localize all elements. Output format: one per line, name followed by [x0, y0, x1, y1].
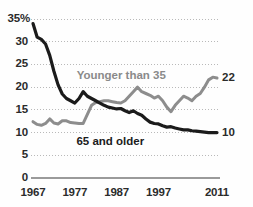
y-tick-10: 10 — [0, 127, 28, 139]
x-tick-1977: 1977 — [55, 187, 95, 199]
series-line-younger-than-35 — [33, 77, 217, 125]
y-tick-20: 20 — [0, 81, 28, 93]
y-tick-0: 0 — [0, 172, 28, 184]
y-tick-30: 30 — [0, 36, 28, 48]
series-annotation-65-and-older: 65 and older — [76, 136, 144, 148]
y-tick-35: 35% — [0, 13, 30, 25]
line-chart-canvas — [0, 0, 253, 207]
x-tick-2011: 2011 — [197, 187, 237, 199]
y-tick-15: 15 — [0, 104, 28, 116]
x-tick-1997: 1997 — [138, 187, 178, 199]
x-tick-1967: 1967 — [13, 187, 53, 199]
x-tick-1987: 1987 — [97, 187, 137, 199]
series-annotation-younger-than-35: Younger than 35 — [77, 70, 166, 82]
chart-container: 35%302520151050 19671977198719972011 22 … — [0, 0, 253, 207]
y-tick-5: 5 — [0, 149, 28, 161]
end-value-label-younger-than-35: 22 — [222, 72, 235, 84]
y-tick-25: 25 — [0, 58, 28, 70]
end-value-label-65-and-older: 10 — [222, 127, 235, 139]
